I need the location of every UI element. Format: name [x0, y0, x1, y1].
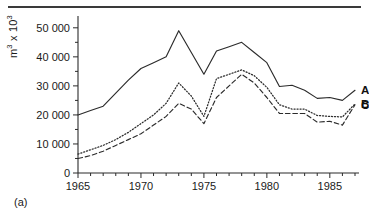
figure-caption: (a) — [14, 196, 27, 208]
y-tick-label: 30 000 — [36, 80, 70, 92]
y-tick-label: 10 000 — [36, 138, 70, 150]
series-line-c — [78, 74, 355, 158]
y-axis-ticks: 010 00020 00030 00040 00050 000 — [36, 22, 78, 179]
x-axis-ticks: 19651970197519801985 — [66, 173, 355, 192]
y-tick-label: 0 — [64, 167, 70, 179]
x-tick-label: 1975 — [192, 180, 216, 192]
x-tick-label: 1980 — [255, 180, 279, 192]
series-line-a — [78, 31, 355, 115]
y-tick-label: 40 000 — [36, 51, 70, 63]
data-series-group — [78, 31, 355, 159]
x-tick-label: 1970 — [129, 180, 153, 192]
series-label-c: C — [361, 99, 369, 111]
series-label-group: ABC — [361, 84, 369, 111]
x-tick-label: 1985 — [318, 180, 342, 192]
y-tick-label: 20 000 — [36, 109, 70, 121]
x-tick-label: 1965 — [66, 180, 90, 192]
plot-area: 010 00020 00030 00040 00050 000 19651970… — [0, 8, 369, 193]
line-chart: 010 00020 00030 00040 00050 000 19651970… — [0, 8, 369, 193]
y-tick-label: 50 000 — [36, 22, 70, 34]
series-label-a: A — [361, 84, 369, 96]
figure-panel: m3 x 103 010 00020 00030 00040 00050 000… — [0, 0, 369, 218]
series-line-b — [78, 70, 355, 154]
